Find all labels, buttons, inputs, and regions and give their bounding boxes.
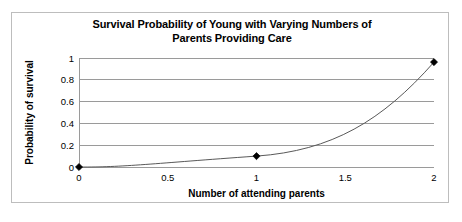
x-tick-label-2: 2 (431, 172, 436, 183)
data-point-0[interactable] (75, 163, 82, 170)
x-tick-label-0: 0 (76, 172, 81, 183)
y-tick-label-0.8: 0.8 (61, 74, 74, 85)
x-tick-label-1: 1 (254, 172, 259, 183)
y-axis-title: Probability of survival (24, 60, 35, 165)
series-line-probability (79, 62, 434, 167)
x-axis-title: Number of attending parents (188, 188, 325, 199)
y-tick-label-0.0: 0 (69, 162, 74, 173)
x-tick-labels: 0 0.5 1 1.5 2 (76, 172, 436, 183)
y-tick-labels: 1 0.8 0.6 0.4 0.2 0 (61, 53, 74, 173)
y-tick-label-0.2: 0.2 (61, 140, 74, 151)
y-tick-label-0.4: 0.4 (61, 118, 74, 129)
data-point-markers (75, 59, 437, 171)
data-point-1[interactable] (253, 153, 260, 160)
chart-frame: Survival Probability of Young with Varyi… (11, 12, 449, 203)
x-tick-label-0.5: 0.5 (161, 172, 174, 183)
x-tick-label-1.5: 1.5 (339, 172, 352, 183)
y-tick-label-1.0: 1 (69, 53, 74, 64)
y-tick-label-0.6: 0.6 (61, 96, 74, 107)
plot-area: 1 0.8 0.6 0.4 0.2 0 0 0.5 1 1.5 2 Number… (12, 13, 450, 204)
